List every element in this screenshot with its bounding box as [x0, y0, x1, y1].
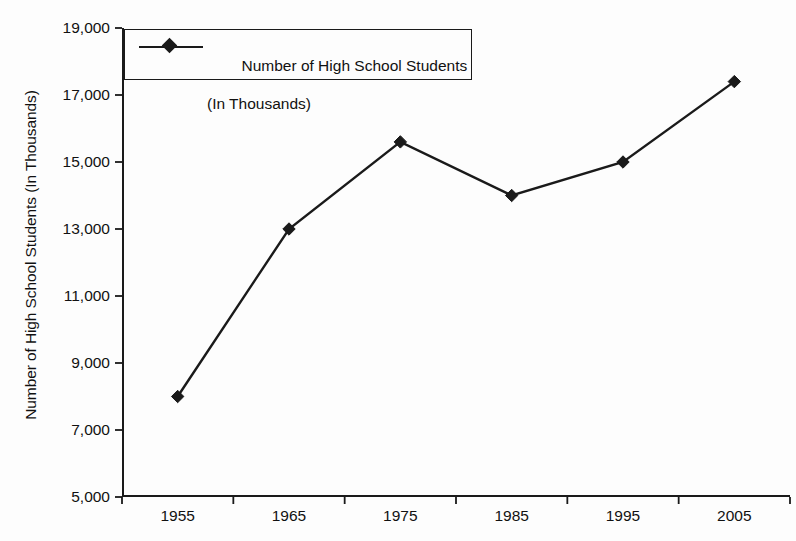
y-axis-tick-label: 9,000 — [18, 355, 110, 371]
y-axis-tick-label-group: 19,00017,00015,00013,00011,0009,0007,000… — [14, 0, 110, 541]
x-axis-tick-label: 1985 — [456, 503, 567, 533]
y-axis-tick-label: 13,000 — [18, 221, 110, 237]
y-axis-tick-label: 7,000 — [18, 422, 110, 438]
legend-entry: Number of High School Students (In Thous… — [125, 30, 467, 151]
legend-diamond-glyph — [162, 38, 178, 54]
line-chart-figure: Number of High School Students (In Thous… — [0, 0, 796, 541]
diamond-marker-icon — [139, 38, 203, 56]
x-axis-tick-label: 1955 — [122, 503, 233, 533]
y-axis-tick-label: 5,000 — [18, 489, 110, 505]
x-axis-tick-label-group: 195519651975198519952005 — [122, 503, 790, 533]
legend: Number of High School Students (In Thous… — [124, 29, 472, 80]
x-axis-tick-label: 1965 — [233, 503, 344, 533]
y-axis-tick-label: 11,000 — [18, 288, 110, 304]
legend-label: Number of High School Students (In Thous… — [203, 37, 467, 151]
x-axis-tick-label: 2005 — [679, 503, 790, 533]
y-axis-tick-label: 19,000 — [18, 20, 110, 36]
legend-label-line2: (In Thousands) — [207, 94, 467, 113]
legend-label-line1: Number of High School Students — [241, 57, 467, 74]
y-axis-tick-label: 17,000 — [18, 87, 110, 103]
y-axis-ticks — [115, 28, 122, 497]
y-axis-tick-label: 15,000 — [18, 154, 110, 170]
x-axis-tick-label: 1975 — [345, 503, 456, 533]
x-axis-tick-label: 1995 — [567, 503, 678, 533]
